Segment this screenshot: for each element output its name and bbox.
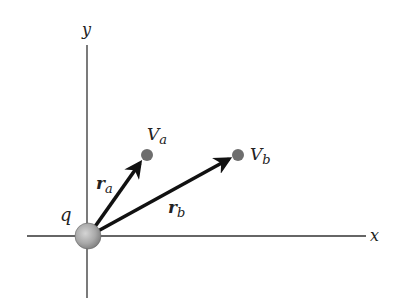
point-charge-potential-diagram: y x q Va Vb ra rb bbox=[0, 0, 405, 307]
y-axis-label: y bbox=[81, 20, 92, 39]
vector-ra-label: ra bbox=[96, 173, 113, 196]
vector-rb-label: rb bbox=[168, 197, 185, 220]
point-a bbox=[141, 149, 153, 161]
point-b bbox=[232, 149, 244, 161]
point-charge-q bbox=[75, 223, 101, 249]
potential-a-label: Va bbox=[147, 124, 167, 147]
potential-b-label: Vb bbox=[250, 144, 271, 167]
x-axis-label: x bbox=[370, 226, 379, 245]
charge-label: q bbox=[60, 204, 72, 225]
